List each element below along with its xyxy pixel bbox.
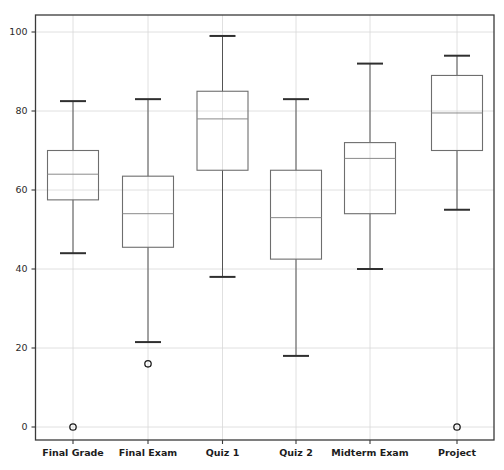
x-axis-tick-label: Project: [438, 447, 477, 458]
x-axis-tick-label: Final Exam: [119, 447, 178, 458]
y-axis-tick-label: 80: [15, 105, 27, 116]
plot-frame: [36, 15, 495, 440]
x-axis-tick-label: Quiz 1: [206, 447, 240, 458]
box-plot-chart: 020406080100Final GradeFinal ExamQuiz 1Q…: [0, 0, 504, 470]
x-axis-tick-label: Quiz 2: [279, 447, 313, 458]
x-axis-tick-label: Midterm Exam: [331, 447, 408, 458]
y-axis-tick-label: 40: [15, 263, 27, 274]
x-axis-tick-label: Final Grade: [42, 447, 104, 458]
y-axis-tick-label: 20: [15, 342, 27, 353]
y-axis-tick-label: 0: [21, 421, 27, 432]
y-axis-tick-label: 60: [15, 184, 27, 195]
box-plot-canvas: 020406080100Final GradeFinal ExamQuiz 1Q…: [0, 0, 504, 470]
y-axis-tick-label: 100: [9, 26, 27, 37]
